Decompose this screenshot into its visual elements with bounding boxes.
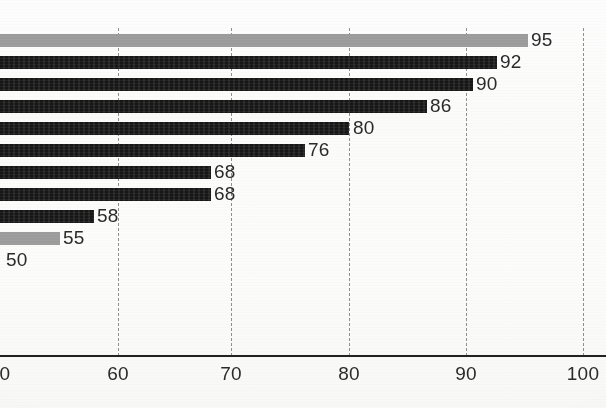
bar-value-label: 76 — [308, 139, 330, 161]
bar — [0, 100, 427, 113]
bar — [0, 34, 528, 47]
bar-value-label: 50 — [6, 249, 28, 271]
bar-row: 58 — [0, 206, 606, 228]
bar-value-label: 80 — [353, 117, 375, 139]
bar-row: 86 — [0, 96, 606, 118]
bar — [0, 232, 60, 245]
bar-row: 68 — [0, 184, 606, 206]
bar-row: 90 — [0, 74, 606, 96]
bar-value-label: 68 — [214, 183, 236, 205]
bar — [0, 144, 305, 157]
bar-value-label: 95 — [531, 29, 553, 51]
bar-value-label: 58 — [97, 205, 119, 227]
bar-row: 80 — [0, 118, 606, 140]
bar — [0, 166, 211, 179]
x-axis-tick-label: 50 — [0, 363, 10, 385]
bar-value-label: 92 — [500, 51, 522, 73]
bar-row: 68 — [0, 162, 606, 184]
bar-value-label: 90 — [476, 73, 498, 95]
bar — [0, 210, 94, 223]
x-axis-tick-label: 60 — [107, 363, 129, 385]
bar-row: 76 — [0, 140, 606, 162]
bar-row: 55 — [0, 228, 606, 250]
x-axis-tick-label: 70 — [220, 363, 242, 385]
x-axis-tick-label: 90 — [455, 363, 477, 385]
scanned-page: 9592908680766868585550 5060708090100 — [0, 0, 606, 408]
bar-row: 95 — [0, 30, 606, 52]
bar-value-label: 55 — [63, 227, 85, 249]
x-axis-tick-label: 80 — [338, 363, 360, 385]
bar-chart: 9592908680766868585550 5060708090100 — [0, 0, 606, 408]
x-axis-tick-label: 100 — [567, 363, 600, 385]
bar-row: 50 — [0, 250, 606, 272]
bar-row: 92 — [0, 52, 606, 74]
bar — [0, 56, 497, 69]
bar — [0, 122, 349, 135]
x-axis-line — [0, 355, 606, 357]
bar-value-label: 86 — [430, 95, 452, 117]
bar — [0, 78, 473, 91]
bar-value-label: 68 — [214, 161, 236, 183]
bar — [0, 188, 211, 201]
